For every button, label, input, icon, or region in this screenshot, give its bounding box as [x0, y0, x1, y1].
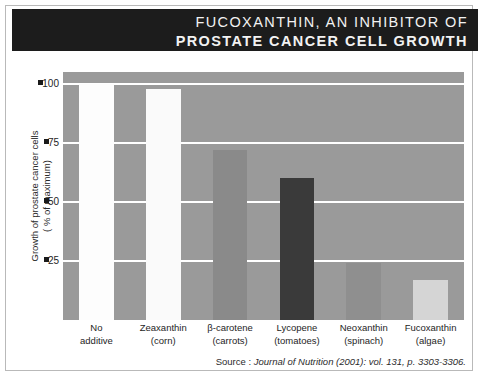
y-axis-tick-label: 50 [48, 195, 59, 206]
page-frame: FUCOXANTHIN, AN INHIBITOR OF PROSTATE CA… [5, 5, 473, 371]
gridline: 100 [63, 83, 464, 85]
source-label: Source : [216, 356, 254, 367]
source-note: Source : Journal of Nutrition (2001): vo… [216, 356, 466, 367]
y-axis-title-line-1: Growth of prostate cancer cells [29, 91, 41, 301]
bar [413, 280, 448, 320]
y-axis-tick-mark [44, 257, 49, 262]
y-axis-tick-label: 75 [48, 136, 59, 147]
x-axis-label-line-1: Fucoxanthin [390, 322, 471, 335]
title-line-1: FUCOXANTHIN, AN INHIBITOR OF [12, 13, 468, 32]
bar [79, 84, 114, 320]
gridline: 50 [63, 201, 464, 203]
bar [146, 89, 181, 320]
y-axis-tick-mark [44, 198, 49, 203]
y-axis-tick-mark [44, 139, 49, 144]
y-axis-tick-label: 100 [42, 77, 59, 88]
x-axis-label-line-2: (algae) [390, 335, 471, 348]
gridline: 25 [63, 260, 464, 262]
source-citation: Journal of Nutrition (2001): vol. 131, p… [254, 356, 466, 367]
plot-area: 255075100 [63, 72, 464, 320]
y-axis-tick-label: 25 [48, 254, 59, 265]
title-banner: FUCOXANTHIN, AN INHIBITOR OF PROSTATE CA… [12, 9, 478, 51]
bar [346, 263, 381, 320]
bar [280, 178, 315, 320]
title-line-2: PROSTATE CANCER CELL GROWTH [12, 32, 468, 51]
bar [213, 150, 248, 320]
bar-chart: Growth of prostate cancer cells ( % of m… [12, 56, 478, 376]
gridline: 75 [63, 142, 464, 144]
x-axis-label: Fucoxanthin(algae) [390, 322, 471, 347]
x-axis-labels: NoadditiveZeaxanthin(corn)β-carotene(car… [63, 322, 464, 358]
y-axis-tick-mark [38, 80, 43, 85]
